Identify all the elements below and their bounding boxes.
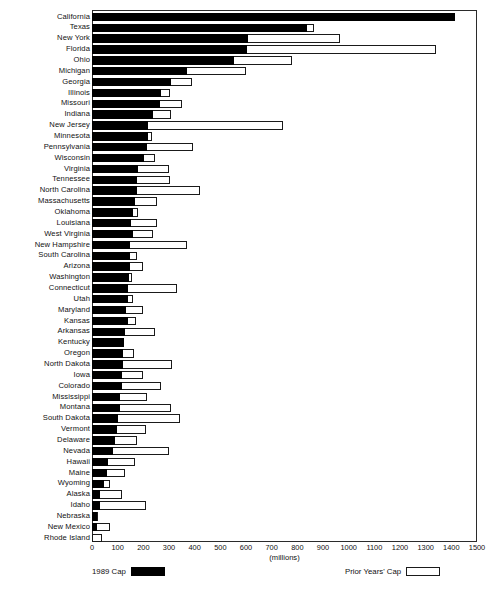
bar-1989-cap [92, 176, 137, 184]
x-axis-tick-label: 1000 [340, 543, 356, 553]
bond-cap-bar-chart: CaliforniaTexasNew YorkFloridaOhioMichig… [0, 0, 495, 590]
state-label: Alaska [0, 488, 90, 499]
state-label: Montana [0, 401, 90, 412]
bar-1989-cap [92, 490, 100, 498]
state-label: New Mexico [0, 521, 90, 532]
bar-1989-cap [92, 273, 129, 281]
bar-1989-cap [92, 523, 97, 531]
x-axis-tick-label: 0 [90, 543, 94, 553]
bar-1989-cap [92, 447, 113, 455]
state-label: New Hampshire [0, 239, 90, 250]
legend-item-1989-cap: 1989 Cap [92, 567, 165, 576]
x-axis-tick-label: 900 [317, 543, 329, 553]
bar-1989-cap [92, 252, 130, 260]
state-label: Arizona [0, 260, 90, 271]
bar-1989-cap [92, 328, 125, 336]
bar-1989-cap [92, 480, 104, 488]
state-label: Michigan [0, 65, 90, 76]
bar-1989-cap [92, 89, 161, 97]
x-axis-tick-label: 600 [240, 543, 252, 553]
legend-swatch-1989-cap [131, 567, 165, 576]
legend-label-prior-years-cap: Prior Years' Cap [345, 567, 401, 576]
state-label: Utah [0, 293, 90, 304]
bar-1989-cap [92, 56, 234, 64]
state-label: Minnesota [0, 130, 90, 141]
x-axis-tick-label: 400 [188, 543, 200, 553]
bar-1989-cap [92, 404, 120, 412]
state-label: Maryland [0, 304, 90, 315]
bar-1989-cap [92, 24, 307, 32]
x-axis-tick-label: 1300 [417, 543, 433, 553]
bar-rows-container: CaliforniaTexasNew YorkFloridaOhioMichig… [0, 10, 495, 542]
bar-1989-cap [92, 458, 108, 466]
state-label: Texas [0, 21, 90, 32]
state-label: Kentucky [0, 336, 90, 347]
bar-1989-cap [92, 208, 133, 216]
bar-1989-cap [92, 317, 128, 325]
x-axis-tick-label: 500 [214, 543, 226, 553]
state-label: North Carolina [0, 184, 90, 195]
x-axis-tick-label: 1500 [469, 543, 485, 553]
bar-1989-cap [92, 219, 131, 227]
state-label: Nebraska [0, 510, 90, 521]
bar-1989-cap [92, 436, 115, 444]
state-label: Indiana [0, 108, 90, 119]
bar-1989-cap [92, 78, 171, 86]
x-axis-tick-label: 700 [265, 543, 277, 553]
x-axis-tick-label: 800 [291, 543, 303, 553]
state-label: South Carolina [0, 249, 90, 260]
state-label: Louisiana [0, 217, 90, 228]
state-label: Oklahoma [0, 206, 90, 217]
state-label: Washington [0, 271, 90, 282]
state-label: Wyoming [0, 477, 90, 488]
state-label: South Dakota [0, 412, 90, 423]
bar-1989-cap [92, 67, 187, 75]
legend-label-1989-cap: 1989 Cap [92, 567, 126, 576]
state-label: New Jersey [0, 119, 90, 130]
bar-1989-cap [92, 230, 133, 238]
x-axis-tick-label: 1100 [366, 543, 382, 553]
x-axis-tick-label: 300 [163, 543, 175, 553]
bar-1989-cap [92, 382, 122, 390]
bar-1989-cap [92, 34, 248, 42]
bar-1989-cap [92, 186, 137, 194]
legend-swatch-prior-years-cap [406, 567, 440, 576]
state-label: California [0, 11, 90, 22]
bar-1989-cap [92, 165, 138, 173]
bar-1989-cap [92, 143, 147, 151]
state-label: Arkansas [0, 325, 90, 336]
state-label: Massachusetts [0, 195, 90, 206]
state-label: New York [0, 32, 90, 43]
state-label: Colorado [0, 380, 90, 391]
bar-1989-cap [92, 197, 135, 205]
x-axis-tick-label: 200 [137, 543, 149, 553]
x-axis-tick-label: 1400 [443, 543, 459, 553]
state-label: Delaware [0, 434, 90, 445]
bar-1989-cap [92, 13, 455, 21]
bar-1989-cap [92, 284, 128, 292]
bar-1989-cap [92, 414, 118, 422]
state-label: Hawaii [0, 456, 90, 467]
state-label: Nevada [0, 445, 90, 456]
state-label: Connecticut [0, 282, 90, 293]
state-label: Florida [0, 43, 90, 54]
bar-prior-years-cap [92, 534, 102, 542]
bar-1989-cap [92, 393, 120, 401]
state-label: North Dakota [0, 358, 90, 369]
state-label: Vermont [0, 423, 90, 434]
state-label: Iowa [0, 369, 90, 380]
bar-1989-cap [92, 425, 117, 433]
state-label: Georgia [0, 76, 90, 87]
state-label: Missouri [0, 97, 90, 108]
state-label: Rhode Island [0, 532, 90, 543]
legend: 1989 Cap Prior Years' Cap [0, 567, 495, 585]
bar-1989-cap [92, 338, 124, 346]
bar-1989-cap [92, 110, 153, 118]
state-label: Idaho [0, 499, 90, 510]
x-axis-unit-label: (millions) [185, 553, 385, 562]
bar-1989-cap [92, 154, 144, 162]
bar-1989-cap [92, 100, 160, 108]
state-label: West Virginia [0, 228, 90, 239]
bar-1989-cap [92, 132, 148, 140]
bar-1989-cap [92, 262, 130, 270]
